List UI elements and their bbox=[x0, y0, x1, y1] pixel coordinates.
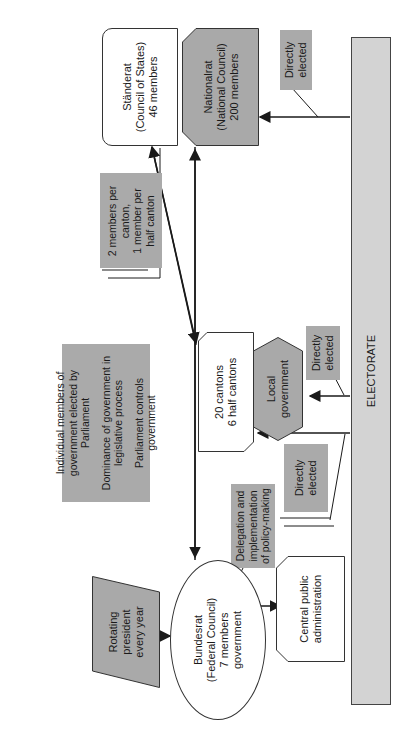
bundesrat-subtitle: (Federal Council) bbox=[205, 598, 218, 682]
central-administration-box: Central public administration bbox=[276, 556, 345, 662]
note-line: elected bbox=[306, 460, 319, 497]
local-government-line2: government bbox=[278, 360, 291, 418]
note-line: implementation bbox=[247, 488, 260, 564]
central-admin-line1: Central public bbox=[298, 575, 311, 643]
nationalrat-elected-note: Directly elected bbox=[280, 30, 312, 90]
note-line: Dominance of government in bbox=[100, 356, 113, 490]
staenderat-name: Ständerat bbox=[121, 42, 134, 132]
note-line: government bbox=[145, 356, 158, 490]
nationalrat-members: 200 members bbox=[227, 43, 240, 130]
half-cantons-count: 6 half cantons bbox=[226, 358, 239, 427]
note-line: government elected by bbox=[67, 356, 80, 490]
note-line: Individual members of bbox=[54, 356, 67, 490]
note-line: 1 member per bbox=[131, 185, 144, 256]
cantons-count: 20 cantons bbox=[213, 358, 226, 427]
note-line: legislative process bbox=[112, 356, 125, 490]
delegation-note: Delegation and implementation of policy-… bbox=[231, 484, 275, 568]
note-line: half canton bbox=[144, 185, 157, 256]
president-line2: president bbox=[120, 606, 133, 657]
president-line1: Rotating bbox=[107, 606, 120, 657]
note-line: Directly bbox=[310, 335, 323, 372]
note-line: Parliament controls bbox=[133, 356, 146, 490]
note-line: elected bbox=[296, 42, 309, 79]
staenderat-box: Ständerat (Council of States) 46 members bbox=[102, 28, 178, 146]
parliament-relations-note: Individual members of government elected… bbox=[62, 344, 150, 502]
staenderat-subtitle: (Council of States) bbox=[134, 42, 147, 132]
bundesrat-role: government bbox=[231, 598, 244, 682]
note-line: Directly bbox=[293, 460, 306, 497]
note-line: Delegation and bbox=[234, 488, 247, 564]
cantons-elected-note: Directly elected bbox=[284, 444, 328, 512]
bundesrat-name: Bundesrat bbox=[192, 598, 205, 682]
electorate-bar: ELECTORATE bbox=[351, 37, 391, 705]
bundesrat-ellipse: Bundesrat (Federal Council) 7 members go… bbox=[170, 560, 266, 720]
note-line: canton, bbox=[119, 185, 132, 256]
rotating-president-box: Rotating president every year bbox=[92, 576, 160, 688]
cantons-box: 20 cantons 6 half cantons bbox=[198, 332, 254, 452]
note-line: Parliament bbox=[79, 356, 92, 490]
bundesrat-members: 7 members bbox=[218, 598, 231, 682]
staenderat-members: 46 members bbox=[147, 42, 160, 132]
note-line: 2 members per bbox=[106, 185, 119, 256]
local-government-box: Local government bbox=[253, 337, 303, 441]
nationalrat-subtitle: (National Council) bbox=[214, 43, 227, 130]
nationalrat-box: Nationalrat (National Council) 200 membe… bbox=[182, 28, 259, 146]
nationalrat-name: Nationalrat bbox=[201, 43, 214, 130]
president-line3: every year bbox=[133, 606, 146, 657]
local-government-line1: Local bbox=[265, 360, 278, 418]
electorate-label: ELECTORATE bbox=[365, 335, 378, 407]
central-admin-line2: administration bbox=[311, 575, 324, 643]
note-line: of policy-making bbox=[259, 488, 272, 564]
local-elected-note: Directly elected bbox=[306, 326, 340, 380]
staenderat-seats-note: 2 members per canton, 1 member per half … bbox=[100, 173, 162, 268]
note-line: elected bbox=[323, 335, 336, 372]
note-line: Directly bbox=[283, 42, 296, 79]
